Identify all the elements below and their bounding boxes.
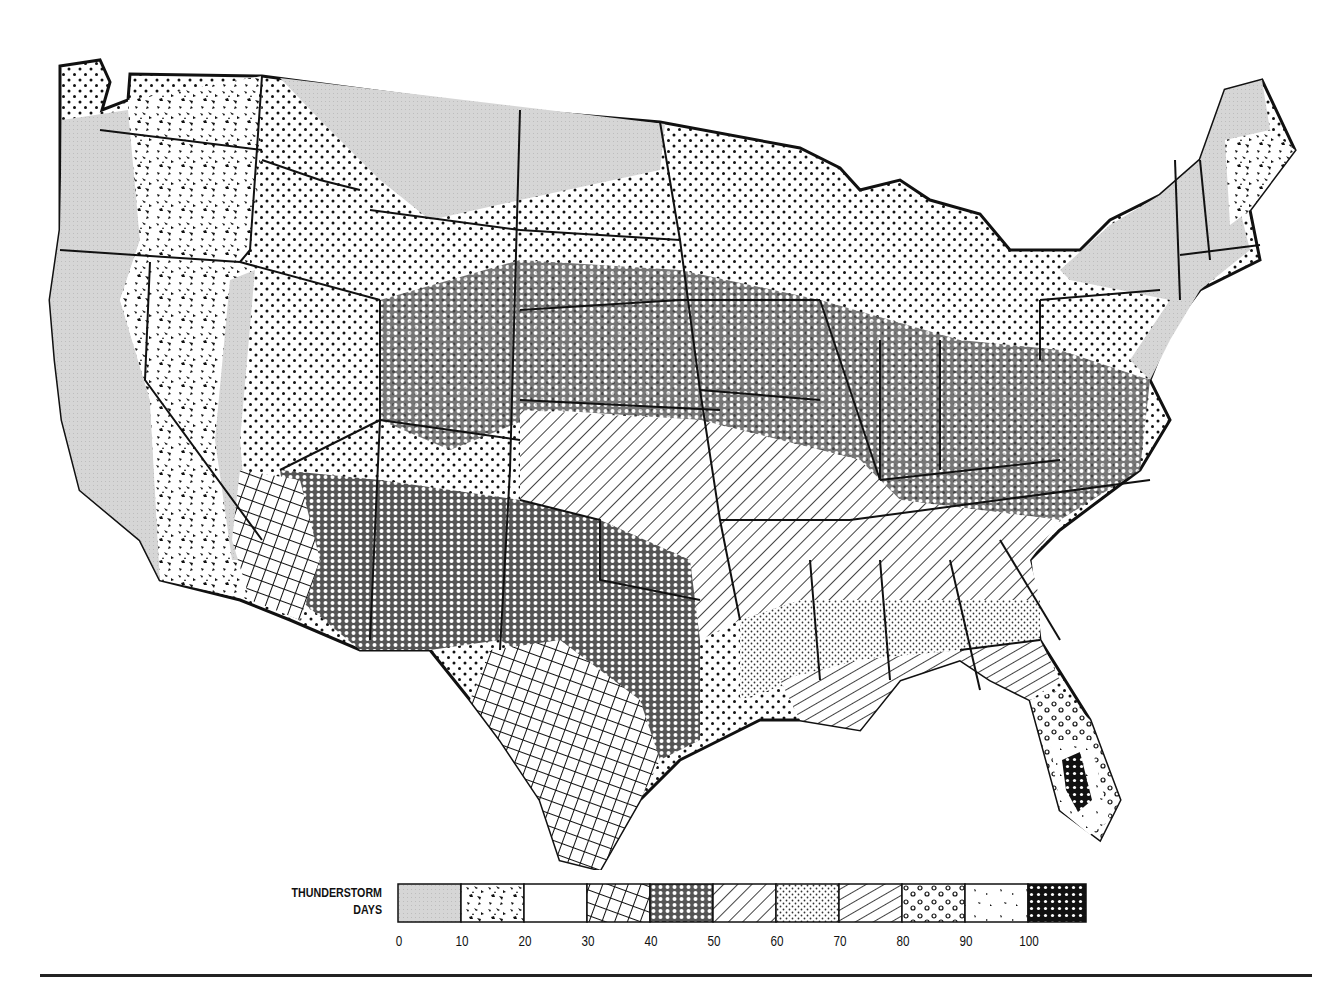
legend-swatch-20-30: [524, 884, 587, 922]
legend-swatch-0-10: [398, 884, 461, 922]
legend-swatch-70-80: [839, 884, 902, 922]
legend-tick: 40: [644, 932, 657, 949]
legend-tick: 50: [707, 932, 720, 949]
legend-swatch-40-50: [650, 884, 713, 922]
legend-tick: 80: [896, 932, 909, 949]
bottom-rule-divider: [40, 974, 1312, 977]
legend-tick: 0: [396, 932, 403, 949]
legend-swatch-90-100: [965, 884, 1028, 922]
legend-swatch-100-plus: [1028, 884, 1086, 922]
legend-tick: 30: [581, 932, 594, 949]
legend-tick: 10: [455, 932, 468, 949]
legend-swatch-50-60: [713, 884, 776, 922]
legend-tick: 100: [1019, 932, 1039, 949]
legend-bar: [390, 878, 1090, 928]
thunderstorm-map: [0, 0, 1343, 870]
legend-tick: 70: [833, 932, 846, 949]
legend-tick: 90: [959, 932, 972, 949]
legend-swatch-30-40: [587, 884, 650, 922]
zone-10-20-maine: [1225, 130, 1295, 225]
us-map-svg: [0, 0, 1343, 870]
legend-title: THUNDERSTORM DAYS: [257, 884, 382, 918]
legend-tick: 60: [770, 932, 783, 949]
legend-swatch-10-20: [461, 884, 524, 922]
legend-swatch-80-90: [902, 884, 965, 922]
legend-swatch-60-70: [776, 884, 839, 922]
legend-title-line1: THUNDERSTORM: [257, 884, 382, 901]
legend-tick: 20: [518, 932, 531, 949]
legend-title-line2: DAYS: [257, 901, 382, 918]
